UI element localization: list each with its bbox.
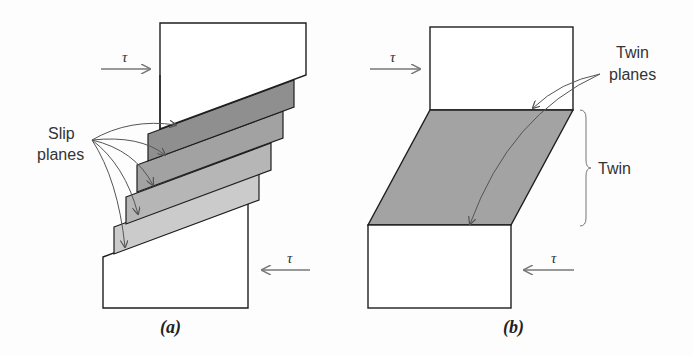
tau-label-bottom: τ [287,250,293,266]
tau-label-top: τ [390,49,396,65]
top-block [430,27,573,110]
bottom-block [368,225,511,308]
slip-label-line2: planes [37,146,84,163]
slip-label-line1: Slip [48,125,75,142]
caption-b: (b) [503,317,524,338]
panel-b-twinning: τ τ Twin planes Twin (b) [368,27,656,338]
caption-a: (a) [160,317,181,338]
twin-label: Twin [598,160,631,177]
panel-a-slip: τ τ Slip planes (a) [37,23,310,338]
tau-label-top: τ [122,49,128,65]
twin-planes-label-line2: planes [609,66,656,83]
twin-brace [580,110,591,226]
twin-planes-label-line1: Twin [616,44,649,61]
twin-region [368,110,573,225]
figure-slip-vs-twinning: τ τ Slip planes (a) τ τ Twin planes [0,0,693,356]
tau-label-bottom: τ [551,250,557,266]
